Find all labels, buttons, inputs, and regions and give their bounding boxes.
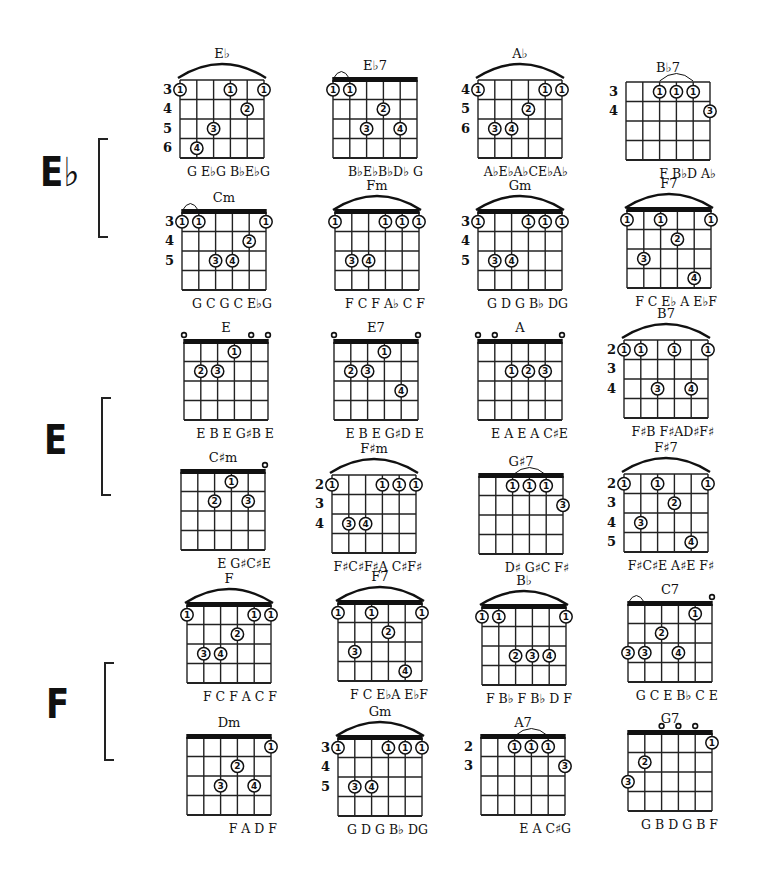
svg-text:2: 2 bbox=[211, 496, 217, 506]
svg-text:1: 1 bbox=[177, 85, 183, 95]
svg-text:2: 2 bbox=[385, 627, 391, 637]
finger-dot-icon: 3 bbox=[242, 495, 254, 507]
svg-text:4: 4 bbox=[675, 648, 681, 658]
chord-name: E♭ bbox=[192, 46, 252, 61]
finger-dot-icon: 1 bbox=[260, 216, 272, 228]
finger-dot-icon: 3 bbox=[559, 760, 571, 772]
svg-text:2: 2 bbox=[658, 628, 664, 638]
svg-text:1: 1 bbox=[479, 612, 485, 622]
finger-dot-icon: 1 bbox=[176, 216, 188, 228]
svg-text:4: 4 bbox=[688, 537, 694, 547]
finger-dot-icon: 2 bbox=[345, 365, 357, 377]
finger-dot-icon: 1 bbox=[174, 84, 186, 96]
chord-name: C7 bbox=[640, 582, 700, 597]
open-string-icon bbox=[266, 333, 271, 338]
finger-dot-icon: 1 bbox=[382, 742, 394, 754]
svg-text:1: 1 bbox=[543, 481, 549, 491]
fret-number: 3 bbox=[607, 496, 616, 509]
svg-text:4: 4 bbox=[365, 256, 371, 266]
svg-text:1: 1 bbox=[419, 743, 425, 753]
finger-dot-icon: 2 bbox=[668, 497, 680, 509]
nut bbox=[627, 730, 712, 735]
nut bbox=[478, 473, 563, 478]
svg-text:1: 1 bbox=[332, 217, 338, 227]
finger-dot-icon: 1 bbox=[396, 216, 408, 228]
fret-number: 4 bbox=[607, 382, 616, 395]
svg-text:1: 1 bbox=[330, 85, 336, 95]
svg-text:1: 1 bbox=[385, 743, 391, 753]
chord-notes: G D G B♭ DG bbox=[332, 822, 428, 837]
finger-dot-icon: 1 bbox=[332, 742, 344, 754]
svg-text:4: 4 bbox=[691, 273, 697, 283]
svg-text:1: 1 bbox=[559, 85, 565, 95]
svg-text:4: 4 bbox=[251, 781, 257, 791]
key-bracket bbox=[101, 397, 111, 496]
finger-dot-icon: 2 bbox=[671, 233, 683, 245]
finger-dot-icon: 3 bbox=[635, 517, 647, 529]
nut bbox=[186, 734, 271, 739]
chord-name: A7 bbox=[493, 715, 553, 730]
open-string-icon bbox=[416, 333, 421, 338]
svg-text:1: 1 bbox=[563, 612, 569, 622]
fret-number: 3 bbox=[163, 83, 172, 96]
finger-dot-icon: 1 bbox=[329, 216, 341, 228]
open-string-icon bbox=[659, 724, 664, 729]
finger-dot-icon: 1 bbox=[651, 478, 663, 490]
nut bbox=[334, 209, 419, 214]
svg-text:1: 1 bbox=[542, 217, 548, 227]
svg-text:3: 3 bbox=[352, 782, 358, 792]
finger-dot-icon: 2 bbox=[655, 627, 667, 639]
finger-dot-icon: 1 bbox=[399, 742, 411, 754]
finger-dot-icon: 4 bbox=[688, 272, 700, 284]
svg-text:1: 1 bbox=[542, 85, 548, 95]
finger-dot-icon: 1 bbox=[265, 609, 277, 621]
finger-dot-icon: 2 bbox=[231, 628, 243, 640]
finger-dot-icon: 1 bbox=[539, 84, 551, 96]
svg-text:1: 1 bbox=[419, 608, 425, 618]
finger-dot-icon: 3 bbox=[346, 255, 358, 267]
finger-dot-icon: 3 bbox=[622, 647, 634, 659]
chord-notes: G D G B♭ DG bbox=[472, 296, 568, 311]
fret-number: 4 bbox=[163, 102, 172, 115]
fretboard-grid: 1234 bbox=[327, 335, 425, 427]
finger-dot-icon: 3 bbox=[211, 365, 223, 377]
finger-dot-icon: 3 bbox=[209, 255, 221, 267]
svg-text:1: 1 bbox=[263, 217, 269, 227]
fret-number: 3 bbox=[607, 362, 616, 375]
fretboard-grid: 1113 bbox=[474, 730, 572, 822]
finger-dot-icon: 3 bbox=[489, 123, 501, 135]
finger-dot-icon: 1 bbox=[635, 344, 647, 356]
fretboard-grid: 123 bbox=[621, 726, 719, 818]
finger-dot-icon: 1 bbox=[416, 607, 428, 619]
finger-dot-icon: 1 bbox=[522, 216, 534, 228]
fret-number: 5 bbox=[607, 535, 616, 548]
key-label: F bbox=[46, 684, 69, 724]
chord-name: B♭ bbox=[494, 573, 554, 588]
svg-text:4: 4 bbox=[397, 124, 403, 134]
svg-text:1: 1 bbox=[416, 217, 422, 227]
chord-name: Fm bbox=[347, 178, 407, 193]
fret-number: 2 bbox=[464, 740, 473, 753]
chord-name: Gm bbox=[490, 178, 550, 193]
svg-text:2: 2 bbox=[674, 234, 680, 244]
svg-text:1: 1 bbox=[268, 610, 274, 620]
svg-text:1: 1 bbox=[268, 742, 274, 752]
finger-dot-icon: 1 bbox=[265, 741, 277, 753]
finger-dot-icon: 2 bbox=[208, 495, 220, 507]
finger-dot-icon: 4 bbox=[365, 781, 377, 793]
svg-text:2: 2 bbox=[348, 366, 354, 376]
finger-dot-icon: 4 bbox=[505, 255, 517, 267]
svg-text:1: 1 bbox=[329, 480, 335, 490]
finger-dot-icon: 2 bbox=[639, 756, 651, 768]
svg-text:1: 1 bbox=[396, 480, 402, 490]
finger-dot-icon: 2 bbox=[243, 235, 255, 247]
svg-text:1: 1 bbox=[525, 217, 531, 227]
chord-name: G7 bbox=[640, 711, 700, 726]
svg-text:3: 3 bbox=[214, 366, 220, 376]
svg-text:3: 3 bbox=[492, 256, 498, 266]
finger-dot-icon: 1 bbox=[702, 344, 714, 356]
svg-text:3: 3 bbox=[654, 384, 660, 394]
finger-dot-icon: 3 bbox=[704, 105, 716, 117]
svg-text:3: 3 bbox=[363, 124, 369, 134]
finger-dot-icon: 1 bbox=[376, 479, 388, 491]
